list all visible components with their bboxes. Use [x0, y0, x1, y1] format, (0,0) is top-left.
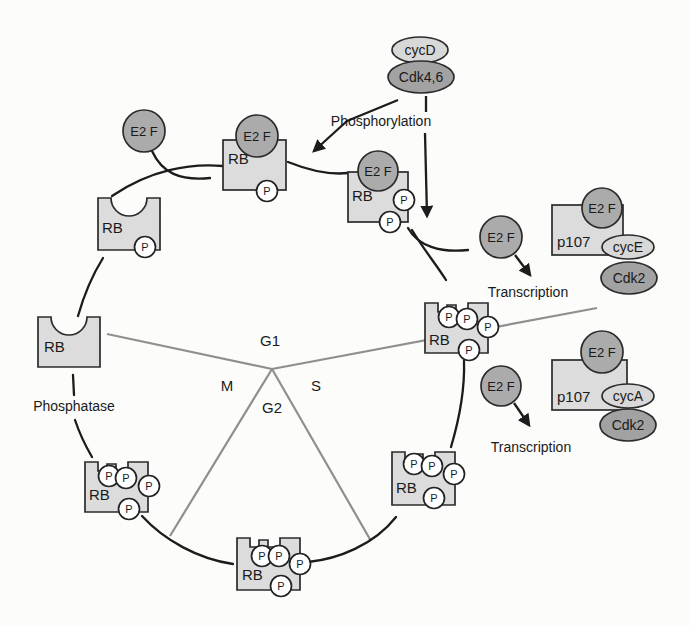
cycle-arc-m-upper [73, 375, 74, 395]
phase-line-m-g2 [170, 369, 272, 536]
e2f-free-1: E2 F [123, 110, 165, 152]
e2f-label: E2 F [588, 345, 616, 360]
rb-notch-complex: RB [38, 317, 100, 367]
p107-e2f-cyce-cdk2-complex: p107 cycE Cdk2 E2 F [552, 188, 657, 294]
transcription-arrow-1 [515, 255, 530, 275]
cdk2-label: Cdk2 [612, 417, 645, 433]
phase-label-g2: G2 [262, 399, 282, 416]
phase-label-m: M [221, 377, 234, 394]
e2f-label: E2 F [364, 164, 392, 179]
phosphate-label: P [463, 313, 470, 325]
cycle-arc-m-to-g1 [78, 258, 103, 316]
rb-label: RB [396, 479, 417, 496]
phosphate-label: P [141, 241, 148, 253]
phosphate-label: P [275, 550, 282, 562]
phosphate-label: P [263, 185, 270, 197]
cdk2-label: Cdk2 [613, 270, 646, 286]
cycle-arc-g1-right [288, 162, 348, 173]
phosphate-label: P [296, 558, 303, 570]
phosphate-label: P [145, 480, 152, 492]
rb-hyperphos-g2-complex: RB P P P P [237, 538, 311, 597]
e2f-label: E2 F [487, 379, 515, 394]
rb-hyperphos-s2-complex: RB P P P P [392, 452, 465, 509]
cdk46-label: Cdk4,6 [399, 69, 444, 85]
phase-boundaries [107, 308, 597, 541]
rb-label: RB [89, 486, 110, 503]
rb-label: RB [102, 219, 123, 236]
phase-label-s: S [311, 377, 321, 394]
transcription-arrow-2 [514, 403, 529, 425]
phosphate-label: P [465, 344, 472, 356]
cycle-arc-m-lower [75, 420, 92, 457]
rb-label: RB [228, 150, 249, 167]
phosphate-label: P [122, 472, 129, 484]
phosphorylation-label: Phosphorylation [331, 113, 431, 129]
phase-line-g1-m [107, 334, 272, 369]
cyce-label: cycE [613, 239, 643, 255]
rb-label: RB [242, 566, 263, 583]
phase-label-g1: G1 [260, 332, 280, 349]
p107-label: p107 [557, 233, 590, 250]
p107-label: p107 [557, 388, 590, 405]
rb-label: RB [429, 331, 450, 348]
phosphate-label: P [450, 468, 457, 480]
rb-hyperphos-m-complex: RB P P P P [85, 462, 160, 520]
phosphate-label: P [410, 458, 417, 470]
p107-e2f-cyca-cdk2-complex: p107 cycA Cdk2 E2 F [552, 331, 656, 441]
rb-e2f-1p-complex: RB E2 F P [223, 115, 286, 202]
phosphate-label: P [445, 311, 452, 323]
rb-notch-1p-complex: RB P [98, 198, 160, 258]
phosphate-label: P [484, 321, 491, 333]
phase-labels: G1 M S G2 [221, 332, 321, 416]
phosphate-label: P [400, 194, 407, 206]
figure-canvas: cycD Cdk4,6 E2 F RB P RB RB E2 F P RB E2… [0, 0, 691, 626]
phosphate-label: P [386, 216, 393, 228]
phosphate-label: P [428, 460, 435, 472]
phosphate-label: P [125, 503, 132, 515]
phosphate-label: P [430, 492, 437, 504]
rb-label: RB [44, 338, 65, 355]
e2f-label: E2 F [243, 129, 271, 144]
cycle-arc-s [451, 361, 464, 447]
e2f-free-3: E2 F [481, 366, 521, 406]
phosphate-label: P [277, 580, 284, 592]
cycd-cdk46-complex: cycD Cdk4,6 [388, 37, 454, 93]
e2f-label: E2 F [130, 124, 158, 139]
phase-line-g2-s [272, 369, 371, 541]
transcription-label-1: Transcription [488, 284, 568, 300]
e2f-label: E2 F [588, 201, 616, 216]
phosphate-label: P [105, 470, 112, 482]
rb-label: RB [352, 187, 373, 204]
phosphatase-label: Phosphatase [33, 398, 115, 414]
cycle-arc-s-to-g2 [308, 517, 396, 562]
phosphate-label: P [258, 550, 265, 562]
cycle-arc-g1-to-s [412, 230, 446, 280]
cycd-label: cycD [404, 42, 435, 58]
cycle-arc-g2-to-m [142, 516, 233, 564]
rb-hyperphos-s-complex: RB P P P P [425, 303, 499, 361]
transcription-label-2: Transcription [491, 439, 571, 455]
rb-e2f-2p-complex: RB E2 F P P [348, 151, 415, 233]
e2f-label: E2 F [487, 230, 515, 245]
cell-cycle-diagram: cycD Cdk4,6 E2 F RB P RB RB E2 F P RB E2… [0, 0, 691, 626]
cyca-label: cycA [613, 388, 644, 404]
e2f-free-2: E2 F [480, 216, 522, 258]
phosphorylation-arrow-down [425, 133, 427, 216]
